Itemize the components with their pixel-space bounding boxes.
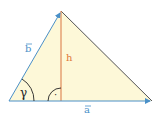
label-h: h: [66, 52, 73, 63]
label-gamma: γ: [20, 86, 27, 100]
label-right-angle-dot: ·: [54, 89, 57, 100]
label-b: b: [25, 43, 31, 54]
triangle-diagram: γ · h b a: [0, 0, 163, 119]
